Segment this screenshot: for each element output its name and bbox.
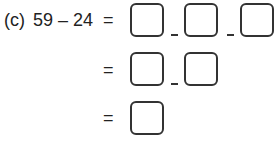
minus-sign-2-1 [171, 83, 178, 85]
answer-box-2-2[interactable] [184, 52, 218, 86]
answer-box-3-1[interactable] [130, 101, 164, 135]
answer-box-1-2[interactable] [184, 3, 218, 37]
problem-expression: 59 – 24 [33, 10, 93, 30]
equals-sign-1: = [103, 10, 114, 30]
answer-box-1-3[interactable] [240, 3, 274, 37]
minus-sign-1-1 [171, 34, 178, 36]
answer-box-2-1[interactable] [130, 52, 164, 86]
equals-sign-3: = [103, 108, 114, 128]
equals-sign-2: = [103, 60, 114, 80]
answer-box-1-1[interactable] [130, 3, 164, 37]
problem-label: (c) [4, 10, 25, 30]
minus-sign-1-2 [227, 34, 234, 36]
